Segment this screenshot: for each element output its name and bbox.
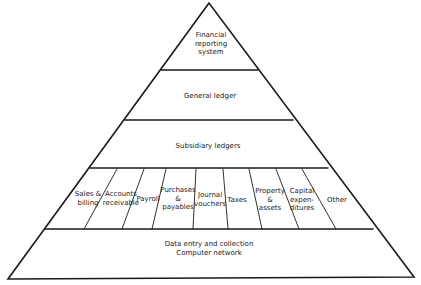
label-line: General ledger	[184, 92, 236, 101]
label-line: Taxes	[227, 196, 246, 205]
label-line: assets	[255, 204, 285, 213]
label-line: Other	[327, 196, 347, 205]
label-line: Purchases	[160, 186, 195, 195]
label-line: system	[195, 48, 227, 57]
cell-property-assets: Property & assets	[255, 187, 285, 213]
label-line: Data entry and collection	[165, 240, 254, 249]
label-line: reporting	[195, 40, 227, 49]
cell-sales-billing: Sales & billing	[75, 190, 101, 207]
label-line: &	[160, 195, 195, 204]
cell-journal-vouchers: Journal vouchers	[194, 191, 226, 208]
cell-accounts-receivable: Accounts receivable	[103, 190, 139, 207]
label-line: Payroll	[136, 195, 159, 204]
cell-purchases-payables: Purchases & payables	[160, 186, 195, 212]
label-line: expen-	[290, 196, 315, 205]
cell-taxes: Taxes	[227, 196, 246, 205]
label-general-ledger: General ledger	[184, 92, 236, 101]
label-line: payables	[160, 203, 195, 212]
label-line: Capital	[290, 187, 315, 196]
label-line: Sales &	[75, 190, 101, 199]
label-line: Computer network	[165, 248, 254, 257]
cell-payroll: Payroll	[136, 195, 159, 204]
label-line: receivable	[103, 198, 139, 207]
label-line: vouchers	[194, 199, 226, 208]
label-line: billing	[75, 198, 101, 207]
label-line: Journal	[194, 191, 226, 200]
label-line: ditures	[290, 204, 315, 213]
label-line: Property	[255, 187, 285, 196]
label-line: Accounts	[103, 190, 139, 199]
label-financial-reporting-system: Financial reporting system	[195, 31, 227, 57]
label-data-entry-network: Data entry and collection Computer netwo…	[165, 240, 254, 257]
label-line: Subsidiary ledgers	[176, 142, 241, 151]
label-line: Financial	[195, 31, 227, 40]
cell-capital-expenditures: Capital expen- ditures	[290, 187, 315, 213]
cell-other: Other	[327, 196, 347, 205]
label-line: &	[255, 196, 285, 205]
label-subsidiary-ledgers: Subsidiary ledgers	[176, 142, 241, 151]
